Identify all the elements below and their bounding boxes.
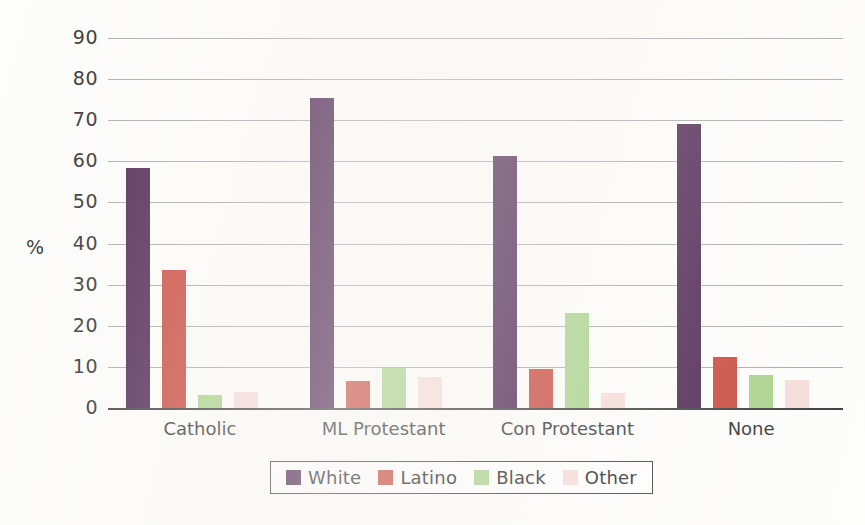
legend-label-white: White xyxy=(308,467,361,488)
legend-swatch-latino-icon xyxy=(378,470,393,485)
bar-latino-catholic xyxy=(162,270,186,408)
y-tick-label-80: 80 xyxy=(52,67,98,89)
y-tick-label-40: 40 xyxy=(52,232,98,254)
bar-white-con-protestant xyxy=(493,156,517,408)
bar-other-none xyxy=(785,380,809,408)
x-label-none: None xyxy=(659,418,843,439)
y-axis-tick-labels: 0102030405060708090 xyxy=(46,0,98,525)
legend-entry-black: Black xyxy=(474,467,546,488)
plot-area xyxy=(108,30,843,408)
y-axis-title: % xyxy=(26,236,44,258)
legend-entry-latino: Latino xyxy=(378,467,457,488)
y-tick-label-50: 50 xyxy=(52,190,98,212)
legend-label-black: Black xyxy=(496,467,546,488)
legend-swatch-black-icon xyxy=(474,470,489,485)
bar-white-none xyxy=(677,124,701,408)
legend-entry-white: White xyxy=(286,467,361,488)
gridline-20 xyxy=(108,326,843,327)
legend-label-latino: Latino xyxy=(400,467,457,488)
bar-latino-ml-protestant xyxy=(346,381,370,408)
y-tick-label-0: 0 xyxy=(52,396,98,418)
gridline-70 xyxy=(108,120,843,121)
gridline-30 xyxy=(108,285,843,286)
chart-legend: WhiteLatinoBlackOther xyxy=(270,461,653,494)
y-tick-label-30: 30 xyxy=(52,273,98,295)
y-tick-label-20: 20 xyxy=(52,314,98,336)
y-tick-label-70: 70 xyxy=(52,108,98,130)
legend-label-other: Other xyxy=(585,467,637,488)
bar-black-con-protestant xyxy=(565,313,589,408)
x-axis-baseline xyxy=(108,408,843,410)
y-tick-label-60: 60 xyxy=(52,149,98,171)
bar-white-ml-protestant xyxy=(310,98,334,408)
gridline-40 xyxy=(108,244,843,245)
legend-entry-other: Other xyxy=(563,467,637,488)
gridline-80 xyxy=(108,79,843,80)
bar-white-catholic xyxy=(126,168,150,408)
bar-latino-con-protestant xyxy=(529,369,553,408)
legend-swatch-other-icon xyxy=(563,470,578,485)
y-tick-label-10: 10 xyxy=(52,355,98,377)
bar-latino-none xyxy=(713,357,737,408)
gridline-50 xyxy=(108,202,843,203)
bar-other-con-protestant xyxy=(601,393,625,408)
bar-black-catholic xyxy=(198,395,222,408)
gridline-90 xyxy=(108,38,843,39)
bar-black-ml-protestant xyxy=(382,368,406,408)
y-tick-label-90: 90 xyxy=(52,26,98,48)
bar-black-none xyxy=(749,375,773,408)
x-label-ml-protestant: ML Protestant xyxy=(292,418,476,439)
gridline-60 xyxy=(108,161,843,162)
bar-other-ml-protestant xyxy=(418,377,442,408)
bar-chart: 0102030405060708090 % CatholicML Protest… xyxy=(0,0,865,525)
legend-swatch-white-icon xyxy=(286,470,301,485)
x-label-catholic: Catholic xyxy=(108,418,292,439)
bar-other-catholic xyxy=(234,392,258,408)
x-label-con-protestant: Con Protestant xyxy=(476,418,660,439)
